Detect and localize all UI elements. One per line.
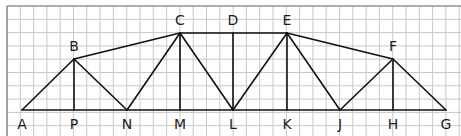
node-label-L: L xyxy=(229,116,237,132)
node-label-K: K xyxy=(282,116,292,132)
node-label-C: C xyxy=(175,12,185,28)
node-label-N: N xyxy=(122,116,132,132)
node-label-H: H xyxy=(388,116,399,132)
node-label-G: G xyxy=(441,116,452,132)
node-label-P: P xyxy=(70,116,78,132)
node-label-B: B xyxy=(69,38,79,54)
truss-diagram: APNMLKJHGBCDEF xyxy=(0,0,461,136)
node-label-M: M xyxy=(174,116,186,132)
node-label-A: A xyxy=(17,116,27,132)
node-label-J: J xyxy=(337,116,342,132)
node-label-E: E xyxy=(283,12,292,28)
member-AB xyxy=(22,59,74,110)
truss-members xyxy=(22,33,446,110)
node-label-F: F xyxy=(389,38,397,54)
node-label-D: D xyxy=(228,12,239,28)
